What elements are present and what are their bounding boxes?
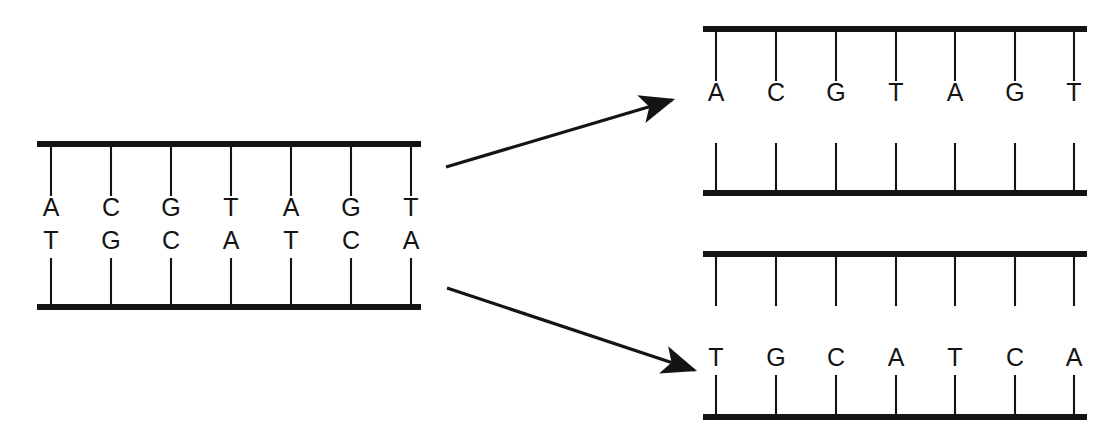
top-strand-base-letter: T [1066, 78, 1081, 106]
bottom-strand-base-letter: C [827, 343, 845, 371]
bottom-strand-base-letter: G [101, 226, 120, 254]
bottom-strand-base-letter: T [708, 343, 723, 371]
daughter-duplex-top-group: ACGTAGT [703, 29, 1087, 193]
top-strand-base-letter: A [283, 193, 300, 221]
dna-replication-diagram: ATCGGCTAATGCTA ACGTAGT TGCATCA [0, 0, 1112, 445]
arrow-to-bottom-daughter [447, 288, 694, 370]
bottom-strand-base-letter: A [403, 226, 420, 254]
bottom-strand-base-letter: C [162, 226, 180, 254]
bottom-strand-base-letter: G [766, 343, 785, 371]
top-strand-base-letter: C [767, 78, 785, 106]
top-strand-base-letter: A [43, 193, 60, 221]
top-strand-base-letter: G [341, 193, 360, 221]
top-strand-base-letter: G [1005, 78, 1024, 106]
top-strand-base-letter: T [403, 193, 418, 221]
replication-arrows-group [446, 100, 694, 370]
top-strand-base-letter: G [161, 193, 180, 221]
daughter-duplex-bottom-group: TGCATCA [703, 254, 1087, 417]
top-strand-base-letter: A [947, 78, 964, 106]
arrow-to-top-daughter [446, 100, 672, 167]
bottom-strand-base-letter: C [1006, 343, 1024, 371]
dna-diagram-canvas: ATCGGCTAATGCTA ACGTAGT TGCATCA [0, 0, 1112, 445]
parent-duplex-group: ATCGGCTAATGCTA [37, 144, 421, 307]
top-strand-base-letter: A [708, 78, 725, 106]
top-strand-base-letter: C [102, 193, 120, 221]
bottom-strand-base-letter: T [947, 343, 962, 371]
top-strand-base-letter: T [223, 193, 238, 221]
bottom-strand-base-letter: A [888, 343, 905, 371]
top-strand-base-letter: G [826, 78, 845, 106]
bottom-strand-base-letter: A [1066, 343, 1083, 371]
bottom-strand-base-letter: T [283, 226, 298, 254]
bottom-strand-base-letter: C [342, 226, 360, 254]
bottom-strand-base-letter: T [43, 226, 58, 254]
bottom-strand-base-letter: A [223, 226, 240, 254]
top-strand-base-letter: T [888, 78, 903, 106]
